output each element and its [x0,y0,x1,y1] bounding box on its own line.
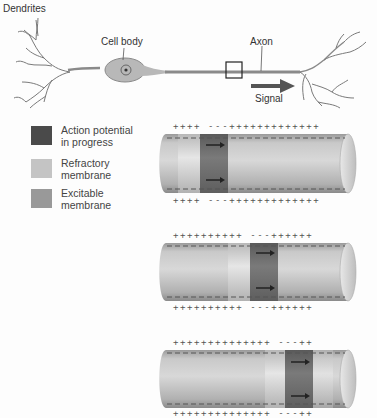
refractory-band [228,243,250,301]
action-potential-band [285,350,313,408]
cylinder-1-top-charges: ++++ ---+++++++++++++ [173,121,320,131]
cylinder-2-bottom-charges: ++++++++++ ---++++++ [173,302,313,312]
cylinder-1-bottom-charges: ++++ ---+++++++++++++ [173,195,320,205]
cylinder-1 [159,134,356,193]
action-potential-band [250,243,278,301]
cylinder-3-top-charges: ++++++++++++++ ---++ [173,337,313,347]
refractory-band [265,350,285,408]
cylinder-3-bottom-charges: ++++++++++++++ ---++ [173,408,313,418]
cylinder-2 [159,243,356,301]
action-potential-band [200,134,228,193]
refractory-band [178,134,200,193]
cylinder-3 [159,350,356,408]
cylinder-2-top-charges: ++++++++++ ---++++++ [173,230,313,240]
